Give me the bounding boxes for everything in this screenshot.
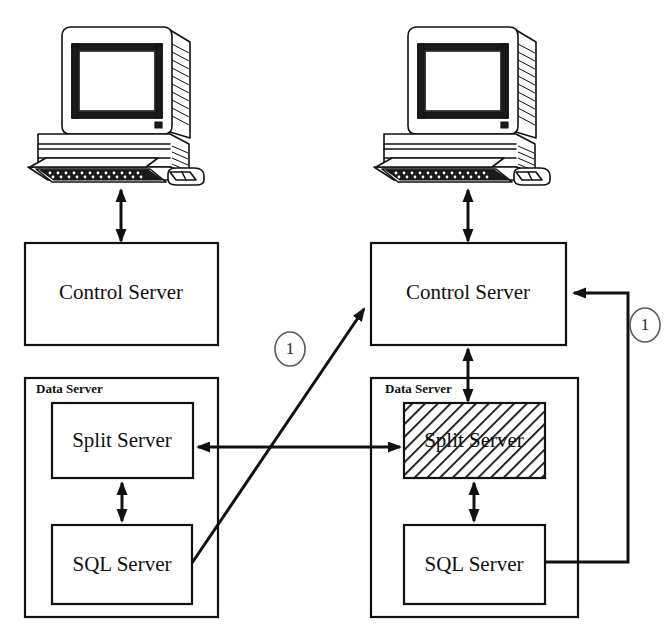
right-sql-server-label: SQL Server: [425, 552, 524, 576]
diagram-canvas: Control Server Control Server Data Serve…: [0, 0, 671, 642]
desktop-computer-icon-right: [374, 27, 550, 185]
diagram-svg: Control Server Control Server Data Serve…: [0, 0, 671, 642]
marker-1-right-label: 1: [641, 315, 650, 334]
node-right-sql-server[interactable]: SQL Server: [404, 525, 545, 604]
marker-1-left-label: 1: [286, 339, 295, 358]
left-split-server-label: Split Server: [72, 428, 172, 452]
right-split-server-label: Split Server: [424, 428, 524, 452]
marker-1-right: 1: [630, 308, 660, 342]
node-left-sql-server[interactable]: SQL Server: [52, 525, 192, 604]
left-sql-server-label: SQL Server: [73, 552, 172, 576]
node-right-control-server[interactable]: Control Server: [371, 243, 566, 345]
node-left-split-server[interactable]: Split Server: [52, 403, 193, 478]
left-control-server-label: Control Server: [59, 280, 183, 304]
marker-1-left: 1: [275, 332, 305, 366]
right-control-server-label: Control Server: [406, 280, 530, 304]
node-left-control-server[interactable]: Control Server: [25, 243, 218, 345]
right-data-server-label: Data Server: [385, 381, 452, 396]
left-data-server-label: Data Server: [36, 381, 103, 396]
node-right-split-server[interactable]: Split Server: [404, 403, 545, 478]
desktop-computer-icon-left: [28, 27, 204, 185]
